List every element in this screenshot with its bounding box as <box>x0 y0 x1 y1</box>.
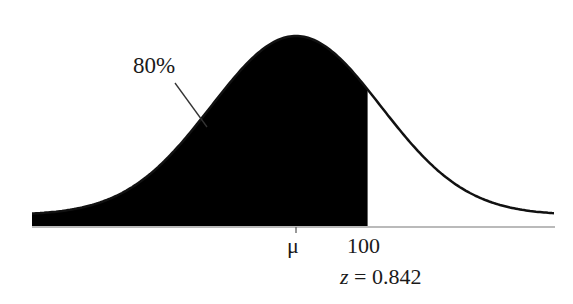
shaded-area <box>32 36 368 226</box>
shaded-percent-annotation: 80% <box>133 53 175 79</box>
z-value: = 0.842 <box>349 264 422 289</box>
z-symbol: z <box>340 264 349 289</box>
mean-label: μ <box>287 233 299 259</box>
z-score-label: z = 0.842 <box>340 264 421 290</box>
cutoff-label: 100 <box>347 233 380 259</box>
annotation-leader-line <box>175 83 207 127</box>
